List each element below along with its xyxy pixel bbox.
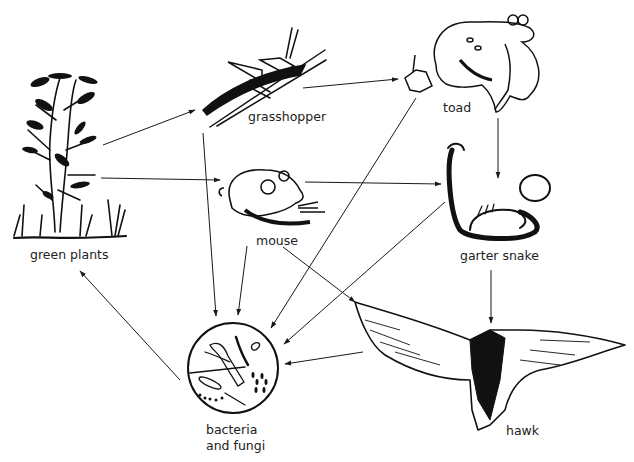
label-green-plants: green plants [30, 247, 108, 262]
food-web-diagram: green plants grasshopper toad mouse gart… [0, 0, 634, 462]
label-grasshopper: grasshopper [248, 109, 326, 124]
label-garter-snake: garter snake [460, 248, 539, 263]
label-mouse: mouse [256, 233, 298, 248]
label-hawk: hawk [506, 423, 539, 438]
label-bacteria: bacteria [206, 422, 257, 437]
label-and-fungi: and fungi [206, 438, 265, 453]
label-toad: toad [443, 100, 471, 115]
